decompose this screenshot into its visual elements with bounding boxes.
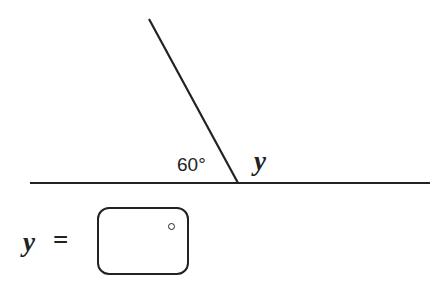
answer-input-box[interactable]	[97, 207, 189, 275]
degree-icon	[168, 223, 175, 230]
given-angle-label: 60°	[177, 154, 206, 176]
answer-variable: y	[23, 227, 35, 258]
equals-sign: =	[53, 225, 68, 256]
unknown-angle-label: y	[254, 146, 266, 177]
